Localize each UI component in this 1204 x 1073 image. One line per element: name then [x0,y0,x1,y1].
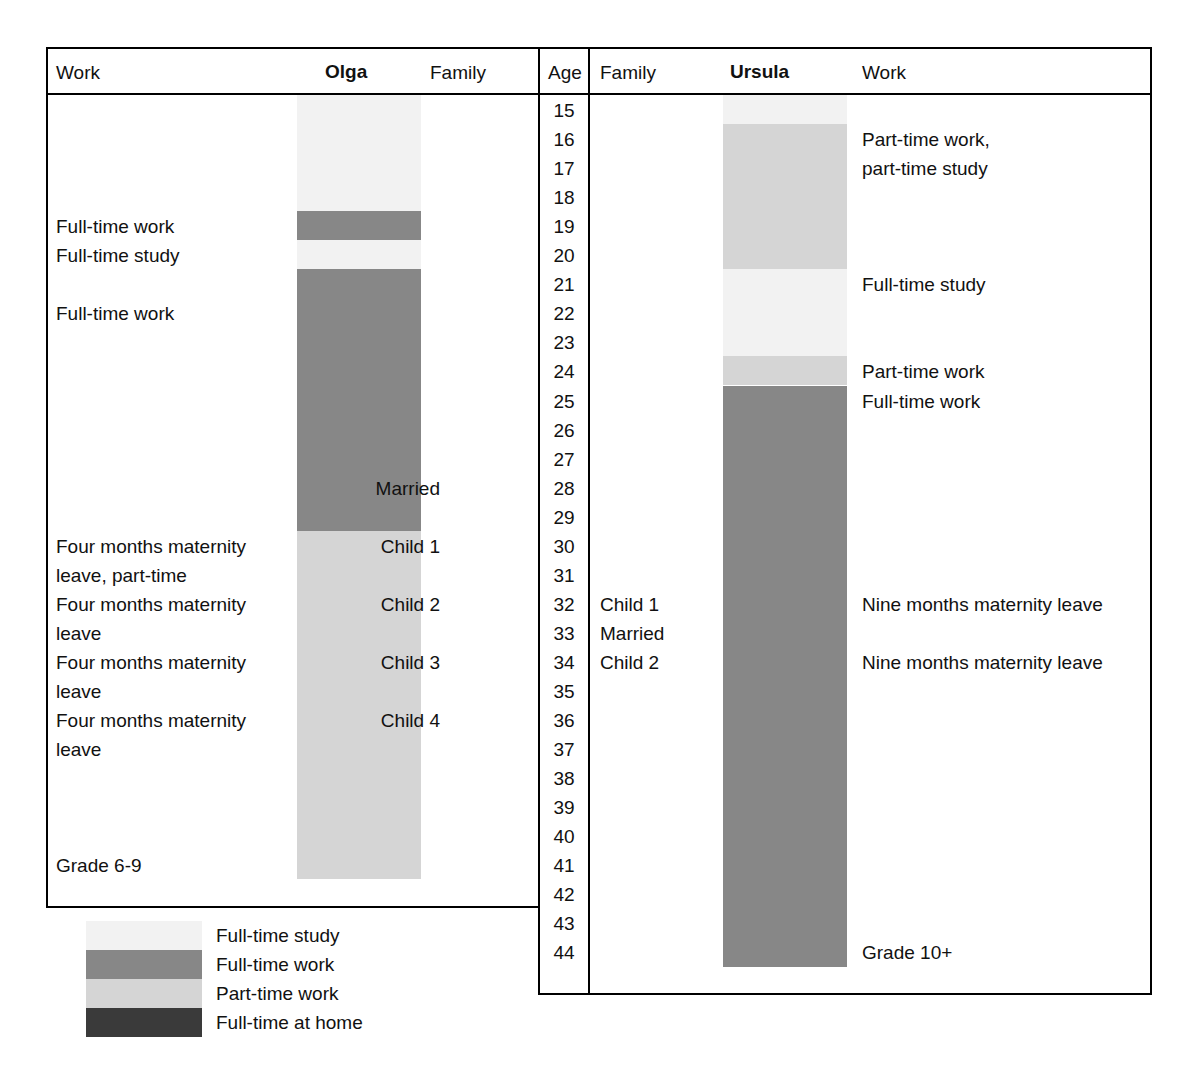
legend-label: Part-time work [216,979,338,1008]
ursula-family-label: Married [600,619,664,648]
age-tick: 27 [540,445,588,474]
olga-work-label: Full-time work [56,212,174,241]
olga-header-family: Family [430,58,486,87]
ursula-header-name: Ursula [730,57,789,86]
age-tick: 24 [540,357,588,386]
ursula-work-label: Full-time work [862,387,980,416]
olga-header-work: Work [56,58,100,87]
age-tick: 18 [540,183,588,212]
age-tick: 41 [540,851,588,880]
olga-work-label: leave [56,735,101,764]
legend-row: Full-time at home [86,1008,426,1037]
ursula-header-work: Work [862,58,906,87]
figure-canvas: Work Olga Family Full-time workFull-time… [0,0,1204,1073]
olga-work-label: Full-time work [56,299,174,328]
legend-label: Full-time study [216,921,340,950]
legend-row: Full-time study [86,921,426,950]
age-header: Age [548,58,582,87]
bar-segment-part-time-work [297,531,421,880]
olga-work-label: Full-time study [56,241,180,270]
bar-segment-full-time-study [297,95,421,211]
age-column-divider [588,47,590,995]
ursula-family-label: Child 1 [600,590,659,619]
age-tick: 36 [540,706,588,735]
bar-segment-full-time-work [723,386,847,967]
age-tick: 28 [540,474,588,503]
legend-swatch-full-time-study [86,921,202,950]
olga-panel [46,47,540,908]
olga-work-label: leave, part-time [56,561,187,590]
legend-row: Full-time work [86,950,426,979]
ursula-work-label: part-time study [862,154,988,183]
olga-work-label: Four months maternity [56,532,246,561]
age-tick: 44 [540,938,588,967]
olga-family-label: Child 3 [381,648,440,677]
bar-segment-full-time-study [297,240,421,269]
olga-family-label: Child 1 [381,532,440,561]
olga-work-label: Four months maternity [56,648,246,677]
age-tick: 23 [540,328,588,357]
ursula-work-label: Nine months maternity leave [862,648,1103,677]
ursula-work-label: Full-time study [862,270,986,299]
olga-header-name: Olga [325,57,367,86]
ursula-work-label: Nine months maternity leave [862,590,1103,619]
bar-segment-part-time-work [723,356,847,385]
age-tick: 32 [540,590,588,619]
age-tick: 39 [540,793,588,822]
age-tick: 22 [540,299,588,328]
olga-family-label: Married [376,474,440,503]
legend-label: Full-time work [216,950,334,979]
age-tick: 17 [540,154,588,183]
legend-row: Part-time work [86,979,426,1008]
olga-work-label: Grade 6-9 [56,851,142,880]
age-tick: 42 [540,880,588,909]
age-tick: 25 [540,387,588,416]
legend: Full-time studyFull-time workPart-time w… [86,921,426,1037]
legend-swatch-full-time-at-home [86,1008,202,1037]
bar-segment-full-time-study [723,269,847,356]
olga-work-label: leave [56,677,101,706]
ursula-header-family: Family [600,58,656,87]
age-tick: 19 [540,212,588,241]
ursula-state-bar [723,95,847,995]
age-tick: 43 [540,909,588,938]
age-tick: 16 [540,125,588,154]
age-tick: 15 [540,96,588,125]
olga-work-label: Four months maternity [56,590,246,619]
age-tick: 35 [540,677,588,706]
age-tick: 26 [540,416,588,445]
age-tick: 38 [540,764,588,793]
age-tick: 20 [540,241,588,270]
olga-work-label: Four months maternity [56,706,246,735]
legend-label: Full-time at home [216,1008,363,1037]
ursula-work-label: Grade 10+ [862,938,952,967]
age-tick: 30 [540,532,588,561]
olga-family-label: Child 2 [381,590,440,619]
age-tick: 21 [540,270,588,299]
ursula-work-label: Part-time work, [862,125,990,154]
age-tick: 37 [540,735,588,764]
olga-work-label: leave [56,619,101,648]
age-tick: 40 [540,822,588,851]
bar-segment-part-time-work [723,124,847,269]
legend-swatch-full-time-work [86,950,202,979]
ursula-family-label: Child 2 [600,648,659,677]
age-tick: 34 [540,648,588,677]
legend-swatch-part-time-work [86,979,202,1008]
ursula-work-label: Part-time work [862,357,984,386]
age-tick: 33 [540,619,588,648]
age-tick: 31 [540,561,588,590]
olga-family-label: Child 4 [381,706,440,735]
age-tick: 29 [540,503,588,532]
olga-header-rule [46,93,540,95]
bar-segment-full-time-work [297,211,421,240]
bar-segment-full-time-study [723,95,847,124]
